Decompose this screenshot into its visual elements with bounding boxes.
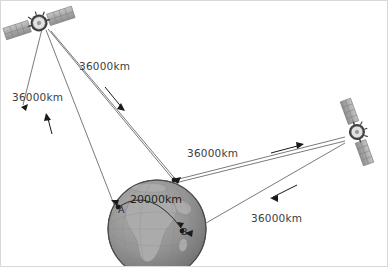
satellite-right xyxy=(338,96,379,166)
distance-label-crosslink: 36000km xyxy=(187,147,238,159)
diagram-canvas: 36000km 36000km 36000km 36000km 20000km … xyxy=(0,0,388,267)
distance-label-downlink-left: 36000km xyxy=(12,91,63,103)
arrow-down-left-to-point-b xyxy=(270,185,297,202)
surface-distance-label: 20000km xyxy=(130,193,182,206)
arrow-up-to-left-satellite xyxy=(44,113,52,134)
satellite-left xyxy=(1,1,76,42)
distance-label-uplink-top: 36000km xyxy=(79,60,130,72)
point-a-label: A xyxy=(118,204,125,215)
arrow-left-edge xyxy=(21,104,28,111)
link-left-satellite-to-point-a-outbound xyxy=(25,29,42,97)
link-left-satellite-to-globe-return xyxy=(51,31,177,181)
link-left-satellite-to-globe-outbound xyxy=(48,29,172,178)
distance-label-downlink-right: 36000km xyxy=(251,212,302,224)
point-b-label: B xyxy=(181,226,188,237)
link-left-satellite-to-point-a-return xyxy=(46,30,115,207)
diagram-graphics xyxy=(1,1,388,267)
